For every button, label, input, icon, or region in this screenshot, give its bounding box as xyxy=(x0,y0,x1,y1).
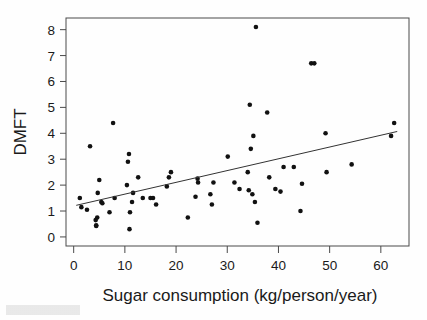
y-tick-label: 1 xyxy=(47,204,55,219)
data-point xyxy=(85,207,90,212)
x-axis-ticks xyxy=(74,246,381,253)
y-tick-label: 7 xyxy=(47,49,55,64)
data-point xyxy=(136,175,141,180)
data-point xyxy=(140,196,145,201)
data-point xyxy=(94,224,99,229)
data-point xyxy=(392,121,397,126)
data-point xyxy=(298,209,303,214)
data-point xyxy=(193,194,198,199)
data-point xyxy=(154,202,159,207)
y-axis-title: DMFT xyxy=(11,108,30,155)
data-point xyxy=(312,61,317,66)
scatter-plot-figure: 012345678 0102030405060 DMFT Sugar consu… xyxy=(0,0,427,320)
data-point xyxy=(389,134,394,139)
y-axis-ticks xyxy=(60,30,66,237)
x-tick-label: 30 xyxy=(220,258,235,273)
y-tick-label: 8 xyxy=(47,23,55,38)
data-point xyxy=(250,192,255,197)
y-tick-label: 4 xyxy=(47,126,55,141)
data-point xyxy=(267,175,272,180)
data-point xyxy=(246,188,251,193)
x-axis-tick-labels: 0102030405060 xyxy=(70,258,388,273)
data-point xyxy=(281,165,286,170)
y-tick-label: 3 xyxy=(47,152,55,167)
data-point xyxy=(247,103,252,108)
x-tick-label: 10 xyxy=(117,258,132,273)
caption-fragment xyxy=(6,305,126,315)
data-point xyxy=(130,200,135,205)
data-point xyxy=(186,215,191,220)
y-tick-label: 6 xyxy=(47,74,55,89)
data-point xyxy=(151,196,156,201)
data-point xyxy=(349,162,354,167)
y-tick-label: 5 xyxy=(47,100,55,115)
y-axis-tick-labels: 012345678 xyxy=(47,23,55,245)
data-point xyxy=(196,180,201,185)
data-point xyxy=(95,191,100,196)
data-point xyxy=(97,178,102,183)
data-point xyxy=(208,192,213,197)
x-axis-title: Sugar consumption (kg/person/year) xyxy=(103,286,378,305)
x-tick-label: 0 xyxy=(70,258,78,273)
data-point xyxy=(300,182,305,187)
regression-line-segment xyxy=(76,131,397,205)
data-point xyxy=(111,121,116,126)
data-point xyxy=(169,170,174,175)
data-point xyxy=(225,154,230,159)
data-point xyxy=(323,131,328,136)
data-point xyxy=(245,170,250,175)
data-point xyxy=(232,180,237,185)
data-point xyxy=(127,152,132,157)
data-point xyxy=(265,110,270,115)
data-point xyxy=(95,215,100,220)
y-tick-label: 0 xyxy=(47,230,55,245)
data-point xyxy=(324,170,329,175)
data-point xyxy=(100,201,105,206)
regression-line xyxy=(76,131,397,205)
data-point xyxy=(126,160,131,165)
data-point xyxy=(249,147,254,152)
x-tick-label: 40 xyxy=(271,258,286,273)
data-point xyxy=(88,144,93,149)
data-points xyxy=(78,25,397,232)
data-point xyxy=(210,202,215,207)
x-tick-label: 60 xyxy=(373,258,388,273)
data-point xyxy=(107,210,112,215)
data-point xyxy=(237,187,242,192)
data-point xyxy=(128,210,133,215)
data-point xyxy=(127,227,132,232)
data-point xyxy=(254,25,259,30)
data-point xyxy=(79,205,84,210)
data-point xyxy=(251,134,256,139)
x-tick-label: 20 xyxy=(169,258,184,273)
data-point xyxy=(125,183,130,188)
data-point xyxy=(292,165,297,170)
data-point xyxy=(253,200,258,205)
x-tick-label: 50 xyxy=(322,258,337,273)
data-point xyxy=(278,189,283,194)
chart-canvas: 012345678 0102030405060 DMFT Sugar consu… xyxy=(0,0,427,320)
data-point xyxy=(167,175,172,180)
data-point xyxy=(255,220,260,225)
data-point xyxy=(273,187,278,192)
data-point xyxy=(78,196,83,201)
plot-frame xyxy=(66,18,409,246)
y-tick-label: 2 xyxy=(47,178,55,193)
data-point xyxy=(211,180,216,185)
